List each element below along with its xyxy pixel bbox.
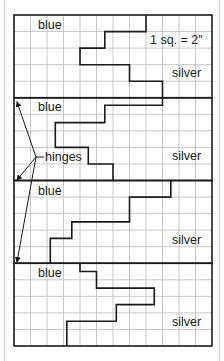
panel-2-silver-label: silver [172, 149, 201, 163]
hinge-arrow-1 [17, 102, 36, 157]
hinged-panel-diagram: blue 1 sq. = 2″ silver blue hinges silve… [0, 0, 224, 361]
panel-3-cut-line [50, 181, 171, 264]
panel-2-blue-label: blue [38, 100, 62, 114]
hinges-label: hinges [45, 150, 82, 164]
panel-1-cut-line [80, 15, 163, 98]
panel-1-blue-label: blue [38, 18, 62, 32]
panel-4-silver-label: silver [172, 315, 201, 329]
panel-4-blue-label: blue [38, 266, 62, 280]
panel-3-silver-label: silver [172, 233, 201, 247]
hinge-arrow-2 [17, 157, 36, 180]
panel-1-silver-label: silver [172, 66, 201, 80]
scale-label: 1 sq. = 2″ [150, 33, 203, 47]
panel-3-blue-label: blue [38, 184, 62, 198]
